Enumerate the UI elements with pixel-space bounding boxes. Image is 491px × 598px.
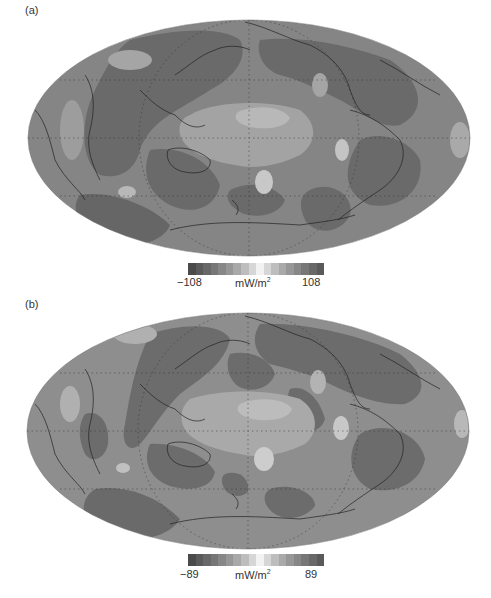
colorbar-segment	[249, 554, 257, 566]
contour-lighter-region	[312, 73, 328, 97]
colorbar-min-label: −108	[177, 276, 202, 288]
colorbar-segment	[196, 554, 204, 566]
colorbar-segment	[294, 554, 302, 566]
colorbar-max-label: 89	[305, 568, 317, 580]
colorbar-segment	[211, 554, 219, 566]
colorbar-unit-text: mW/m	[235, 277, 267, 289]
colorbar-segment	[264, 554, 272, 566]
colorbar-a	[188, 263, 324, 275]
contour-lighter-region	[60, 100, 84, 160]
colorbar-segment	[241, 554, 249, 566]
contour-lighter-region	[108, 50, 152, 70]
contour-lighter-region	[454, 410, 470, 438]
colorbar-segment	[233, 263, 241, 275]
contour-lighter-region	[450, 122, 470, 158]
colorbar-segment	[301, 263, 309, 275]
contour-lightest-region	[333, 416, 349, 440]
colorbar-unit-label: mW/m2	[235, 276, 271, 289]
colorbar-segment	[271, 554, 279, 566]
colorbar-unit-text: mW/m	[235, 569, 267, 581]
colorbar-segment	[226, 554, 234, 566]
colorbar-unit-exponent: 2	[267, 276, 271, 283]
colorbar-b	[188, 554, 324, 566]
colorbar-segment	[309, 263, 317, 275]
colorbar-segment	[294, 263, 302, 275]
heat-flow-map-a	[0, 0, 491, 260]
contour-lighter-region	[60, 386, 80, 422]
colorbar-min-label: −89	[180, 568, 199, 580]
colorbar-segment	[317, 263, 325, 275]
colorbar-segment	[226, 263, 234, 275]
colorbar-segment	[203, 263, 211, 275]
colorbar-segment	[211, 263, 219, 275]
colorbar-segment	[241, 263, 249, 275]
colorbar-segment	[317, 554, 325, 566]
colorbar-segment	[188, 554, 196, 566]
colorbar-unit-exponent: 2	[267, 568, 271, 575]
colorbar-segment	[279, 263, 287, 275]
contour-lightest-region	[254, 447, 274, 471]
colorbar-segment	[196, 263, 204, 275]
colorbar-segment	[256, 554, 264, 566]
heat-flow-map-b	[0, 294, 491, 554]
colorbar-segment	[301, 554, 309, 566]
colorbar-max-label: 108	[302, 276, 320, 288]
contour-lightest-region	[255, 170, 273, 194]
colorbar-unit-label: mW/m2	[235, 568, 271, 581]
colorbar-segment	[188, 263, 196, 275]
contour-lighter-region	[310, 370, 326, 394]
colorbar-segment	[279, 554, 287, 566]
colorbar-segment	[271, 263, 279, 275]
colorbar-segment	[264, 263, 272, 275]
colorbar-segment	[256, 263, 264, 275]
colorbar-segment	[309, 554, 317, 566]
contour-lightest-region	[335, 139, 349, 161]
contour-lightest-region	[116, 463, 130, 473]
colorbar-segment	[249, 263, 257, 275]
colorbar-segment	[286, 263, 294, 275]
colorbar-segment	[218, 554, 226, 566]
colorbar-segment	[203, 554, 211, 566]
contour-lighter-region	[113, 324, 157, 344]
colorbar-segment	[233, 554, 241, 566]
colorbar-segment	[218, 263, 226, 275]
colorbar-segment	[286, 554, 294, 566]
